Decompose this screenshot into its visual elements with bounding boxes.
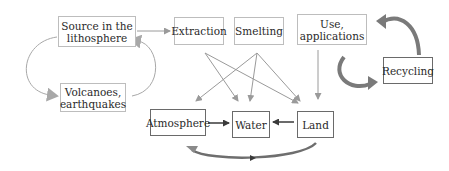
node-recycling-label: Recycling	[382, 65, 434, 77]
node-volcanoes-line1: Volcanoes,	[60, 86, 126, 98]
arrow-land-to-atmosphere	[192, 143, 316, 158]
arrow-extraction-to-land	[205, 53, 298, 103]
node-use-line2: applications	[300, 30, 365, 42]
arrow-recycling-to-use	[382, 19, 419, 55]
arrow-volcanoes-to-source	[132, 41, 156, 96]
arrow-smelting-to-water	[250, 53, 257, 101]
arrow-source-to-volcanoes	[26, 37, 57, 95]
node-volcanoes-line2: earthquakes	[60, 98, 126, 110]
node-volcanoes: Volcanoes,earthquakes	[60, 83, 126, 112]
node-atmosphere: Atmosphere	[150, 109, 206, 136]
node-extraction-label: Extraction	[171, 25, 227, 37]
node-source-line1: Source in the	[61, 20, 132, 32]
node-source: Source in thelithosphere	[58, 16, 136, 47]
node-use-line1: Use,	[300, 18, 365, 30]
arrow-extraction-to-water	[205, 53, 238, 101]
node-water: Water	[232, 111, 270, 138]
node-land-label: Land	[302, 119, 329, 131]
arrowhead-mid	[250, 155, 256, 161]
arrowhead-recycling	[368, 76, 378, 90]
node-land: Land	[297, 111, 334, 138]
node-smelting: Smelting	[234, 17, 284, 45]
node-recycling: Recycling	[383, 57, 433, 84]
node-smelting-label: Smelting	[235, 25, 283, 37]
arrowhead-use	[376, 14, 386, 29]
node-source-line2: lithosphere	[61, 32, 132, 44]
node-water-label: Water	[235, 119, 267, 131]
arrow-smelting-to-atmosphere	[196, 53, 257, 101]
node-use: Use,applications	[297, 14, 367, 45]
arrow-use-to-recycling	[339, 57, 370, 86]
node-atmosphere-label: Atmosphere	[146, 117, 210, 129]
arrow-smelting-to-land	[257, 53, 300, 101]
node-extraction: Extraction	[174, 17, 224, 45]
